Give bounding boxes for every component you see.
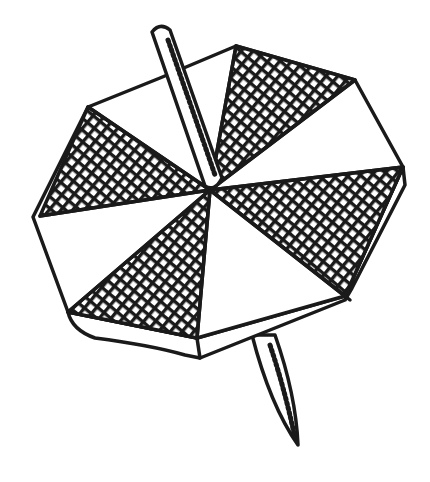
- spinning-top-drawing: [0, 0, 430, 482]
- spinning-top-illustration: Black and white line drawing of an octag…: [0, 0, 430, 482]
